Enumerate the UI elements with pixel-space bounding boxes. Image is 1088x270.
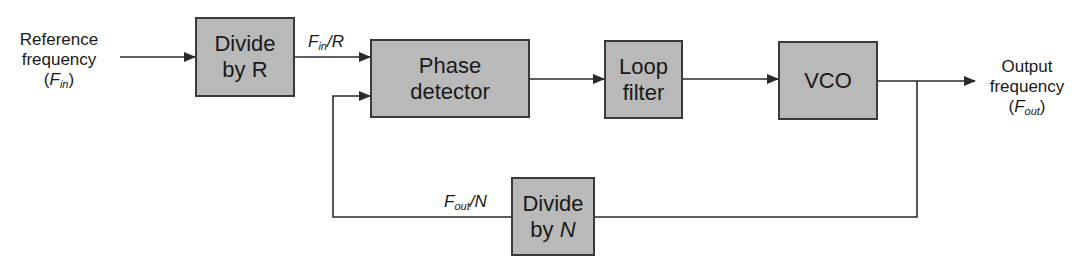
input-label-line2: frequency <box>0 50 118 70</box>
fout-over-n-sub: out <box>454 200 469 212</box>
phase-detector-line2: detector <box>410 79 490 105</box>
input-label-line1: Reference <box>0 30 118 50</box>
vco-block: VCO <box>778 41 878 120</box>
divide-by-r-line2: by R <box>214 57 275 83</box>
output-symbol-sub: out <box>1025 105 1040 117</box>
loop-filter-line1: Loop <box>619 54 668 80</box>
divide-by-n-var: N <box>560 217 576 242</box>
fin-over-r-suffix: /R <box>327 32 344 51</box>
fin-over-r-symbol: F <box>308 32 318 51</box>
output-label-line2: frequency <box>978 77 1076 97</box>
output-symbol: (Fout) <box>978 97 1076 121</box>
output-symbol-main: F <box>1014 97 1024 116</box>
divide-by-n-prefix: by <box>530 217 559 242</box>
phase-detector-block: Phase detector <box>370 39 530 118</box>
divide-by-n-line2: by N <box>522 217 583 243</box>
loop-filter-block: Loop filter <box>604 40 683 119</box>
divide-by-r-line1: Divide <box>214 31 275 57</box>
fin-over-r-label: Fin/R <box>308 32 344 52</box>
divide-by-n-line1: Divide <box>522 191 583 217</box>
output-label-line1: Output <box>978 57 1076 77</box>
phase-detector-line1: Phase <box>410 53 490 79</box>
loop-filter-line2: filter <box>619 80 668 106</box>
pll-block-diagram: Reference frequency (Fin) Divide by R Fi… <box>0 0 1088 270</box>
fout-over-n-label: Fout/N <box>444 192 487 212</box>
divide-by-r-block: Divide by R <box>195 17 295 97</box>
input-symbol-sub: in <box>60 78 69 90</box>
fout-over-n-suffix: /N <box>470 192 487 211</box>
vco-label: VCO <box>804 68 852 94</box>
fin-over-r-sub: in <box>318 40 327 52</box>
input-symbol: (Fin) <box>0 70 118 94</box>
output-label: Output frequency (Fout) <box>978 57 1076 121</box>
fout-over-n-symbol: F <box>444 192 454 211</box>
input-label: Reference frequency (Fin) <box>0 30 118 94</box>
divide-by-n-block: Divide by N <box>511 177 595 256</box>
input-symbol-main: F <box>50 70 60 89</box>
